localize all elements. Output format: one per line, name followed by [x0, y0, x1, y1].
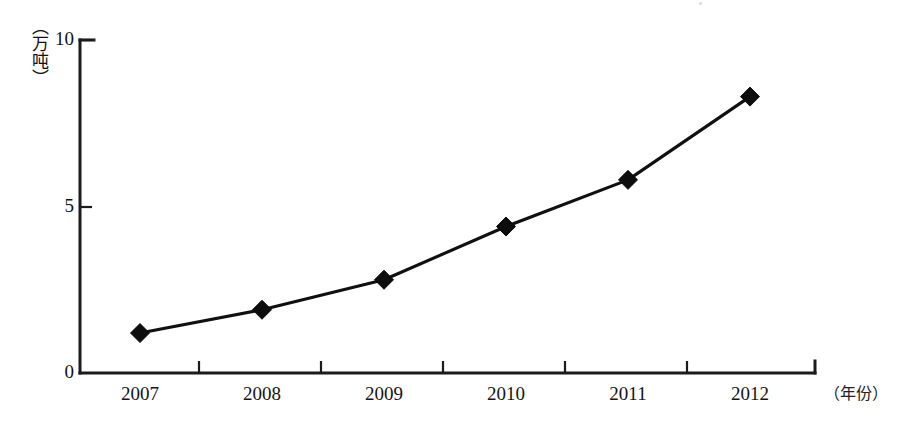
series-markers: [131, 87, 760, 342]
line-chart-plot: [0, 0, 899, 438]
data-point-marker-2007: [131, 324, 150, 343]
data-point-marker-2008: [253, 300, 272, 319]
series-line-path: [140, 97, 750, 333]
chart-page: （万吨） 10 5 0 2007 2008 2009 2010 2011 201…: [0, 0, 899, 438]
data-point-marker-2011: [619, 170, 638, 189]
data-point-marker-2009: [375, 270, 394, 289]
data-point-marker-2012: [741, 87, 760, 106]
data-point-marker-2010: [497, 217, 516, 236]
